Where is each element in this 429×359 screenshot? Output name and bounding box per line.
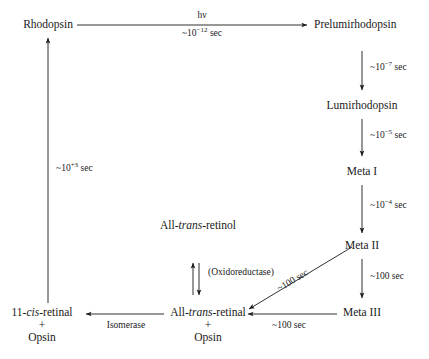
edge-label-metaiii-to-all-trans-retinal-time: ~100 sec	[248, 320, 330, 331]
edge-label-rhodopsin-to-prelumirhodopsin-time: ~10−12 sec	[152, 28, 252, 39]
edge-time-9-exp: +3	[71, 161, 78, 169]
edge-label-photon: hν	[152, 10, 252, 21]
reaction-diagram: Rhodopsin Prelumirhodopsin Lumirhodopsin…	[0, 0, 429, 359]
edge-label-photon-text: hν	[197, 10, 206, 20]
node-11-cis-retinal: 11-cis-retinal + Opsin	[0, 306, 86, 344]
node-all-trans-retinal-name: All-trans-retinal	[166, 306, 250, 319]
node-rhodopsin-label: Rhodopsin	[23, 18, 73, 30]
edge-time-0-base: ~10	[182, 28, 197, 38]
node-11-cis-retinal-prefix: 11-	[12, 306, 27, 318]
node-all-trans-retinol-italic: trans	[179, 219, 203, 231]
node-lumirhodopsin: Lumirhodopsin	[300, 99, 424, 112]
edge-label-prelumirhodopsin-to-lumirhodopsin-time: ~10−7 sec	[370, 62, 407, 73]
node-all-trans-retinal-prefix: All-	[170, 306, 189, 318]
edge-time-9-unit: sec	[78, 163, 93, 173]
edge-time-3-base: ~10	[370, 200, 385, 210]
edge-time-0-exp: −12	[197, 26, 208, 34]
edge-label-metaii-to-metaiii-time: ~100 sec	[370, 271, 404, 282]
edge-oxidoreductase-text: (Oxidoreductase)	[208, 267, 274, 277]
node-meta-i-label: Meta I	[347, 165, 377, 177]
node-all-trans-retinal-suffix: -retinal	[212, 306, 245, 318]
node-11-cis-retinal-plus: +	[0, 319, 86, 331]
edge-time-5-text: ~100 sec	[272, 320, 306, 330]
edge-time-3-exp: −4	[385, 198, 392, 206]
edge-label-11-cis-retinal-to-rhodopsin-time: ~10+3 sec	[56, 163, 93, 174]
edge-time-1-exp: −7	[385, 60, 392, 68]
edge-time-9-base: ~10	[56, 163, 71, 173]
edge-time-0-unit: sec	[208, 28, 223, 38]
edge-label-lumirhodopsin-to-metai-time: ~10−5 sec	[370, 130, 407, 141]
node-all-trans-retinal: All-trans-retinal + Opsin	[166, 306, 250, 344]
edge-label-oxidoreductase: (Oxidoreductase)	[208, 267, 274, 278]
edge-time-3-unit: sec	[392, 200, 407, 210]
node-11-cis-retinal-italic: cis	[26, 306, 39, 318]
node-11-cis-retinal-name: 11-cis-retinal	[0, 306, 86, 319]
node-meta-iii-label: Meta III	[343, 306, 381, 318]
edge-label-metai-to-metaii-time: ~10−4 sec	[370, 200, 407, 211]
node-all-trans-retinal-plus: +	[166, 319, 250, 331]
node-all-trans-retinol: All-trans-retinol	[133, 219, 263, 232]
node-meta-iii: Meta III	[300, 306, 424, 319]
edge-time-2-base: ~10	[370, 130, 385, 140]
node-all-trans-retinal-italic: trans	[189, 306, 213, 318]
edge-isomerase-text: Isomerase	[107, 320, 146, 330]
node-all-trans-retinol-prefix: All-	[160, 219, 179, 231]
edge-label-isomerase: Isomerase	[86, 320, 166, 331]
edge-time-2-exp: −5	[385, 128, 392, 136]
edge-time-1-base: ~10	[370, 62, 385, 72]
node-all-trans-retinal-partner: Opsin	[166, 331, 250, 344]
node-all-trans-retinol-suffix: -retinol	[202, 219, 236, 231]
node-11-cis-retinal-partner: Opsin	[0, 331, 86, 344]
node-lumirhodopsin-label: Lumirhodopsin	[327, 99, 398, 111]
edge-time-4-text: ~100 sec	[370, 271, 404, 281]
node-meta-ii-label: Meta II	[345, 239, 379, 251]
edge-time-1-unit: sec	[392, 62, 407, 72]
node-rhodopsin: Rhodopsin	[0, 18, 73, 31]
node-prelumirhodopsin-label: Prelumirhodopsin	[314, 18, 396, 30]
edge-time-2-unit: sec	[392, 130, 407, 140]
node-prelumirhodopsin: Prelumirhodopsin	[314, 18, 396, 31]
node-11-cis-retinal-suffix: -retinal	[39, 306, 72, 318]
node-meta-ii: Meta II	[300, 239, 424, 252]
node-meta-i: Meta I	[300, 165, 424, 178]
